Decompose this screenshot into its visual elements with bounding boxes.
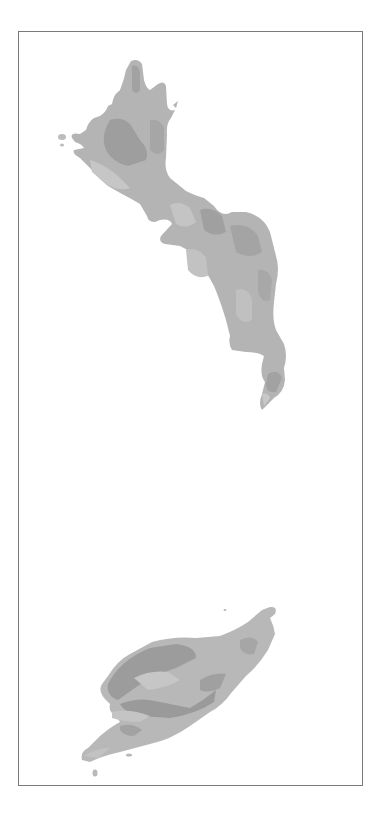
terrain-patch [150, 120, 164, 154]
northern-island[interactable] [58, 60, 286, 410]
southern-island[interactable] [82, 607, 276, 777]
islet [126, 754, 132, 757]
map-canvas[interactable] [0, 0, 384, 825]
terrain-patch [132, 66, 140, 93]
islet [224, 609, 227, 611]
islet [60, 144, 64, 147]
islet [173, 101, 178, 108]
islet [93, 770, 98, 777]
islet [58, 134, 66, 140]
